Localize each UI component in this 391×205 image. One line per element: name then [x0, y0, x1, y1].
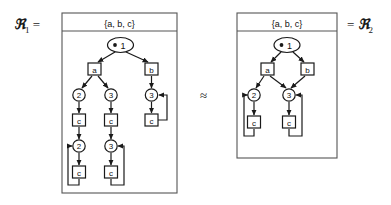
- figure-root: ℜ1 = ≈ = ℜ2 {a, b, c} 1 a: [0, 0, 391, 205]
- left-node-circle-3-upper-label: 3: [109, 91, 114, 100]
- left-node-root-bullet: [113, 43, 117, 47]
- right-node-root-label: 1: [287, 41, 292, 51]
- right-graph-panel: {a, b, c} 1 a b 2 3: [237, 13, 337, 158]
- left-node-circle-2-lower-label: 2: [77, 142, 82, 151]
- left-node-box-c1-label: c: [77, 117, 81, 126]
- left-node-circle-3-right-label: 3: [149, 91, 154, 100]
- right-node-circle-2-label: 2: [252, 91, 257, 100]
- left-node-circle-2-upper-label: 2: [77, 91, 82, 100]
- left-graph-header-label: {a, b, c}: [104, 19, 135, 29]
- left-node-root-label: 1: [120, 41, 125, 51]
- left-node-circle-3-lower-label: 3: [109, 142, 114, 151]
- right-graph-header-label: {a, b, c}: [272, 19, 303, 29]
- right-node-box-b-label: b: [305, 66, 310, 75]
- left-node-box-a-label: a: [92, 66, 97, 75]
- left-graph-panel: {a, b, c} 1 a b 2 3: [62, 13, 177, 193]
- right-node-circle-3-label: 3: [287, 91, 292, 100]
- left-node-box-c2-label: c: [109, 117, 113, 126]
- left-node-box-c4-label: c: [77, 169, 81, 178]
- left-node-box-c3-label: c: [150, 117, 154, 126]
- right-node-box-c2-label: c: [287, 119, 291, 128]
- left-node-box-c5-label: c: [109, 169, 113, 178]
- graphs-canvas: {a, b, c} 1 a b 2 3: [0, 0, 391, 205]
- right-node-root-bullet: [280, 43, 284, 47]
- right-node-box-a-label: a: [265, 66, 270, 75]
- left-node-box-b-label: b: [149, 66, 154, 75]
- right-node-box-c1-label: c: [252, 119, 256, 128]
